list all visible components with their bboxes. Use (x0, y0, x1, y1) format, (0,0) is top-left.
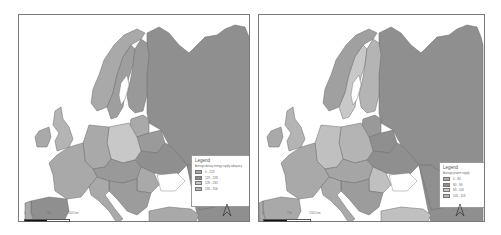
map-panel-protein-supply: Legend Average protein supply 0 - 80 80 … (258, 14, 485, 222)
scale-ticks: 0 750 1500 km (263, 211, 335, 216)
legend-item: 105 - 113 (443, 194, 482, 198)
legend-swatch (195, 181, 202, 185)
legend-subtitle: Average dietary energy supply adequacy (195, 165, 249, 168)
scale-tick: 1500 km (309, 211, 321, 215)
legend-swatch (195, 176, 202, 180)
legend-label: 93 - 105 (453, 188, 464, 192)
legend: Legend Average dietary energy supply ade… (191, 155, 250, 207)
legend-label: 80 - 93 (453, 183, 462, 187)
legend-swatch (443, 188, 450, 192)
scale-tick: 0 (24, 211, 26, 215)
legend-label: 123 - 128 (205, 176, 218, 180)
legend-label: 0 - 123 (205, 170, 214, 174)
scale-bar-graphic (24, 219, 70, 222)
legend: Legend Average protein supply 0 - 80 80 … (439, 162, 485, 208)
scale-bar: 0 750 1500 km (24, 211, 96, 216)
scale-tick: 1500 km (67, 211, 79, 215)
legend-label: 0 - 80 (453, 177, 461, 181)
legend-item: 0 - 123 (195, 170, 249, 174)
scale-tick: 0 (263, 211, 265, 215)
legend-item: 135 - 156 (195, 187, 249, 191)
legend-item: 80 - 93 (443, 183, 482, 187)
legend-item: 128 - 135 (195, 181, 249, 185)
legend-label: 105 - 113 (453, 194, 465, 198)
legend-swatch (443, 194, 450, 198)
legend-item: 93 - 105 (443, 188, 482, 192)
legend-title: Legend (443, 165, 482, 170)
legend-subtitle: Average protein supply (443, 172, 482, 175)
legend-title: Legend (195, 158, 249, 163)
north-arrow-icon (455, 203, 465, 217)
map-panel-dietary-energy: Legend Average dietary energy supply ade… (18, 14, 250, 222)
legend-item: 123 - 128 (195, 176, 249, 180)
legend-swatch (443, 183, 450, 187)
legend-item: 0 - 80 (443, 177, 482, 181)
scale-tick: 750 (287, 211, 292, 215)
scale-bar-graphic (263, 219, 311, 222)
scale-ticks: 0 750 1500 km (24, 211, 96, 216)
north-arrow-icon (222, 203, 232, 217)
legend-label: 135 - 156 (205, 187, 218, 191)
legend-swatch (195, 187, 202, 191)
scale-bar: 0 750 1500 km (263, 211, 335, 216)
legend-label: 128 - 135 (205, 181, 218, 185)
legend-swatch (443, 177, 450, 181)
legend-swatch (195, 170, 202, 174)
scale-tick: 750 (46, 211, 51, 215)
